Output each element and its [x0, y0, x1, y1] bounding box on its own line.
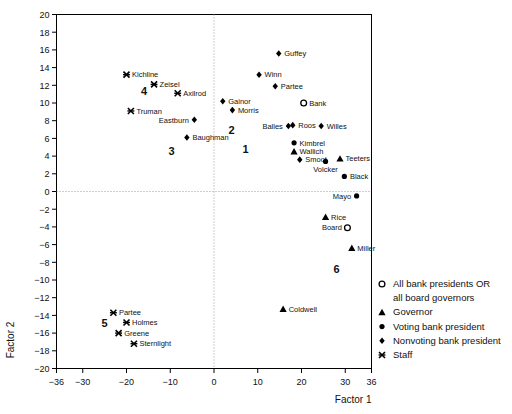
point-label: Greene — [124, 329, 149, 338]
point-label: Morris — [238, 106, 259, 115]
triangle-icon — [348, 245, 355, 251]
triangle-icon — [336, 155, 343, 161]
point-label: Rice — [331, 213, 346, 222]
cluster-label: 3 — [169, 145, 175, 157]
circle-icon — [323, 159, 328, 164]
cluster-label: 6 — [333, 263, 339, 275]
data-point: Greene — [115, 329, 149, 338]
point-label: Coldwell — [289, 305, 318, 314]
point-label: Roos — [298, 121, 316, 130]
legend-item[interactable]: Staff — [379, 349, 413, 360]
scatter-plot: −36−30−20−10010203036 −20−18−16−14−12−10… — [0, 0, 512, 414]
legend: All bank presidents ORall board governor… — [378, 278, 501, 360]
data-point: Gainor — [220, 97, 251, 106]
point-label: Partee — [119, 308, 141, 317]
point-label: Baughman — [192, 133, 228, 142]
cross-icon — [130, 341, 137, 347]
point-label: Winn — [265, 70, 282, 79]
data-point: Guffey — [276, 49, 306, 58]
legend-label: Governor — [393, 306, 433, 317]
point-label: Volcker — [313, 165, 338, 174]
data-point: Board — [322, 223, 350, 232]
zero-lines — [57, 15, 372, 369]
data-point: Morris — [230, 106, 259, 115]
cross-icon — [379, 352, 386, 358]
diamond-icon — [230, 107, 235, 114]
data-point: Eastburn — [159, 116, 197, 125]
legend-item[interactable]: Nonvoting bank president — [379, 335, 501, 346]
y-tick-label: −6 — [39, 240, 49, 250]
cross-icon — [110, 310, 117, 316]
data-point: Partee — [110, 308, 141, 317]
data-point: Coldwell — [280, 305, 318, 314]
y-tick-label: 0 — [44, 187, 49, 197]
y-tick-label: −10 — [34, 275, 49, 285]
point-label: Kimbrel — [300, 139, 326, 148]
y-axis-ticks: −20−18−16−14−12−10−8−6−4−202468101214161… — [34, 10, 56, 374]
y-tick-label: 20 — [39, 10, 49, 20]
open-circle-icon — [345, 225, 351, 231]
point-label: Holmes — [132, 318, 158, 327]
open-circle-icon — [301, 100, 307, 106]
point-label: Miller — [357, 244, 375, 253]
point-label: Bank — [309, 99, 326, 108]
y-tick-label: 4 — [44, 151, 49, 161]
y-tick-label: 2 — [44, 169, 49, 179]
legend-item[interactable]: Governor — [378, 306, 432, 317]
data-point: Baughman — [184, 133, 228, 142]
diamond-icon — [184, 134, 189, 141]
x-tick-label: −20 — [119, 377, 134, 387]
cross-icon — [123, 72, 130, 78]
y-tick-label: 6 — [44, 134, 49, 144]
circle-icon — [379, 324, 384, 329]
x-tick-label: 0 — [211, 377, 216, 387]
x-axis-ticks: −36−30−20−10010203036 — [49, 369, 377, 387]
data-point: Truman — [127, 107, 162, 116]
triangle-icon — [280, 306, 287, 312]
diamond-icon — [297, 156, 302, 163]
x-axis-title: Factor 1 — [335, 394, 372, 405]
legend-item[interactable]: All bank presidents ORall board governor… — [379, 278, 490, 303]
point-label: Balles — [262, 122, 283, 131]
point-label: Partee — [281, 82, 303, 91]
point-label: Mayo — [333, 192, 351, 201]
point-label: Axilrod — [183, 89, 206, 98]
legend-label-line2: all board governors — [393, 292, 475, 303]
data-point: Roos — [290, 121, 316, 130]
diamond-icon — [290, 122, 295, 129]
cross-icon — [127, 108, 134, 114]
diamond-icon — [276, 50, 281, 57]
x-tick-label: −10 — [163, 377, 178, 387]
data-point: Kichline — [123, 70, 158, 79]
diamond-icon — [318, 123, 323, 130]
triangle-icon — [322, 214, 329, 220]
open-circle-icon — [379, 281, 385, 287]
point-label: Gainor — [228, 97, 251, 106]
legend-label: Staff — [393, 349, 413, 360]
triangle-icon — [378, 309, 385, 315]
point-label: Teeters — [346, 154, 371, 163]
cluster-label: 2 — [228, 124, 234, 136]
circle-icon — [291, 140, 296, 145]
data-point: Axilrod — [174, 89, 206, 98]
y-tick-label: −18 — [34, 346, 49, 356]
data-point: Rice — [322, 213, 346, 222]
data-point: Partee — [273, 82, 303, 91]
diamond-icon — [379, 338, 384, 345]
legend-label: Nonvoting bank president — [393, 335, 501, 346]
data-point: Mayo — [333, 192, 359, 201]
y-tick-label: 12 — [39, 81, 49, 91]
y-tick-label: −20 — [34, 364, 49, 374]
y-tick-label: −4 — [39, 222, 49, 232]
point-label: Truman — [136, 107, 162, 116]
diamond-icon — [192, 117, 197, 124]
chart-canvas: −36−30−20−10010203036 −20−18−16−14−12−10… — [0, 0, 512, 414]
circle-icon — [354, 193, 359, 198]
x-tick-label: −36 — [49, 377, 64, 387]
legend-item[interactable]: Voting bank president — [379, 321, 484, 332]
triangle-icon — [290, 148, 297, 154]
data-point: Holmes — [123, 318, 158, 327]
legend-label: Voting bank president — [393, 321, 485, 332]
diamond-icon — [220, 98, 225, 105]
cluster-label: 5 — [102, 317, 108, 329]
